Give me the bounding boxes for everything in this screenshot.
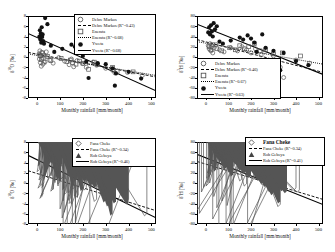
legend-item: Rob Gebeya (R2=0.46) (75, 159, 153, 165)
legend-label: Enerata (215, 73, 228, 78)
legend-solid-line-icon (200, 91, 215, 97)
figure-panel-grid: 86420-2-4-6-80100200300400500δ18O [‰]Mon… (0, 0, 335, 252)
legend-label: Debre Markos (215, 61, 240, 66)
legend-line-swatch (201, 94, 214, 95)
legend: Debre MarkosDebre Markos (R2=0.46)Enerat… (197, 58, 281, 99)
legend-item: Rob Gebeya (R2=0.41) (248, 158, 322, 164)
panel-top-left: 86420-2-4-6-80100200300400500δ18O [‰]Mon… (0, 0, 167, 126)
legend-label: Fana Cheke (R2=0.34) (90, 146, 128, 152)
legend-line-swatch (78, 37, 91, 38)
legend-label: Debre Markos (R2=0.46) (215, 66, 258, 72)
legend: Fana ChekeFana Cheke (R2=0.34)Rob Gebeya… (72, 138, 156, 167)
legend-line-swatch (76, 149, 89, 150)
legend-line-swatch (249, 160, 262, 161)
legend-solid-line-icon (248, 158, 263, 164)
legend-label: Enerata (92, 29, 105, 34)
legend-label: Enerata (R2=0.67) (215, 78, 246, 84)
legend-line-swatch (76, 161, 89, 162)
legend-solid-line-icon (75, 159, 90, 165)
legend-line-swatch (249, 148, 262, 149)
legend-solid-line-icon (77, 47, 92, 53)
panel-bottom-left: 86420-2-4-6-80100200300400500δ18O [‰]Mon… (0, 126, 167, 252)
legend-label: Fana Cheke (R2=0.34) (263, 145, 301, 151)
legend-line-swatch (78, 50, 91, 51)
panel-bottom-right: 806040200-20-40-60-800100200300400500δ2H… (167, 126, 335, 252)
legend-line-swatch (201, 81, 214, 82)
legend-label: Enerata (R2=0.68) (92, 34, 123, 40)
legend-label: Debre Markos (92, 17, 117, 22)
panel-top-right: 806040200-20-40-60-800100200300400500δ2H… (167, 0, 335, 126)
legend-line-swatch (78, 25, 91, 26)
legend-label: Yweta (R2=0.68) (92, 47, 121, 53)
legend-item: Yweta (R2=0.63) (200, 91, 278, 97)
legend-label: Rob Gebeya (R2=0.46) (90, 158, 129, 164)
legend: Fana ChekeFana Cheke (R2=0.34)Rob Gebeya… (245, 137, 325, 166)
legend-label: Rob Gebeya (R2=0.41) (263, 157, 302, 163)
legend-label: Yweta (R2=0.63) (215, 91, 244, 97)
legend-label: Fana Cheke (90, 141, 110, 146)
legend-label: Rob Gebeya (263, 152, 284, 157)
legend-item: Yweta (R2=0.68) (77, 47, 153, 53)
legend: Debre MarkosDebre Markos (R2=0.43)Enerat… (74, 14, 156, 55)
legend-label: Yweta (215, 85, 226, 90)
legend-line-swatch (201, 69, 214, 70)
legend-label: Yweta (92, 41, 103, 46)
legend-label: Rob Gebeya (90, 153, 111, 158)
legend-label: Debre Markos (R2=0.43) (92, 22, 135, 28)
